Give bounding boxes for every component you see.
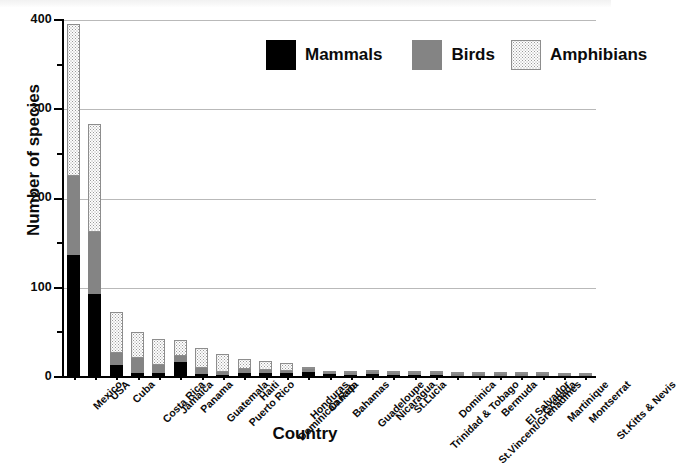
bar-segment-mammals [174, 362, 187, 377]
bar-haiti [238, 359, 251, 377]
x-tick-4 [159, 376, 161, 380]
bar-segment-birds [88, 232, 101, 294]
x-tick-label-2: Cuba [130, 378, 157, 405]
bar-usa [88, 124, 101, 377]
x-tick-5 [180, 376, 182, 380]
bars-layer [63, 20, 596, 377]
x-tick-9 [266, 376, 268, 380]
y-tick-label-400: 400 [12, 12, 52, 26]
x-tick-12 [330, 376, 332, 380]
x-tick-18 [457, 376, 459, 380]
x-tick-10 [287, 376, 289, 380]
x-tick-8 [244, 376, 246, 380]
y-tick-100 [54, 287, 63, 289]
bar-segment-amphibians [195, 348, 208, 369]
x-tick-1 [95, 376, 97, 380]
bar-segment-birds [131, 358, 144, 372]
bar-panama [174, 340, 187, 377]
x-tick-14 [372, 376, 374, 380]
x-tick-3 [138, 376, 140, 380]
bar-segment-birds [152, 365, 165, 373]
x-tick-20 [500, 376, 502, 380]
bar-segment-amphibians [131, 332, 144, 358]
bar-mexico [67, 24, 80, 377]
x-tick-19 [479, 376, 481, 380]
x-tick-16 [415, 376, 417, 380]
bar-segment-mammals [67, 255, 80, 377]
y-tick-label-0: 0 [12, 369, 52, 383]
x-tick-11 [308, 376, 310, 380]
bar-guatemala [195, 348, 208, 377]
bar-dominican-rep [259, 361, 272, 377]
y-tick-200 [54, 198, 63, 200]
y-tick-0 [54, 376, 63, 378]
x-tick-17 [436, 376, 438, 380]
bar-segment-amphibians [238, 359, 251, 369]
bar-segment-amphibians [216, 354, 229, 372]
y-tick-300 [54, 108, 63, 110]
x-tick-7 [223, 376, 225, 380]
bar-segment-amphibians [67, 24, 80, 176]
x-axis-labels: MexicoUSACubaCosta RicaJamaicaPanamaGuat… [63, 378, 596, 468]
bar-segment-birds [110, 353, 123, 365]
bar-segment-amphibians [174, 340, 187, 356]
bar-jamaica [152, 339, 165, 377]
x-tick-0 [74, 376, 76, 380]
y-tick-400 [54, 19, 63, 21]
bar-costa-rica [131, 332, 144, 377]
bar-segment-amphibians [152, 339, 165, 366]
y-axis-title: Number of species [24, 50, 44, 270]
bar-honduras [280, 363, 293, 377]
bar-segment-mammals [88, 294, 101, 377]
bar-puerto-rico [216, 354, 229, 377]
x-tick-23 [564, 376, 566, 380]
bar-segment-amphibians [259, 361, 272, 370]
x-tick-22 [543, 376, 545, 380]
x-tick-15 [393, 376, 395, 380]
scan-artifact-band [0, 0, 611, 7]
bar-segment-birds [67, 176, 80, 255]
y-tick-label-100: 100 [12, 280, 52, 294]
x-tick-13 [351, 376, 353, 380]
bar-segment-amphibians [110, 312, 123, 353]
bar-cuba [110, 312, 123, 377]
bar-segment-amphibians [280, 363, 293, 371]
x-tick-24 [585, 376, 587, 380]
x-tick-6 [202, 376, 204, 380]
x-tick-2 [116, 376, 118, 380]
bar-segment-amphibians [88, 124, 101, 232]
x-tick-21 [521, 376, 523, 380]
